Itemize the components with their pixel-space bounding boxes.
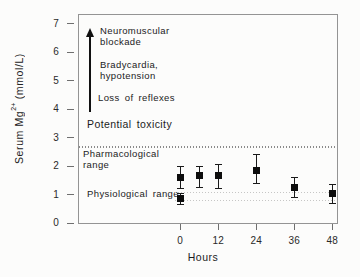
y-tick-label: 6 [41, 46, 59, 57]
error-bar-cap [177, 204, 184, 205]
y-tick-label: 2 [41, 160, 59, 171]
annotation-potential-toxicity: Potential toxicity [87, 119, 172, 130]
data-point-marker [329, 190, 336, 197]
plot-area: Neuromuscular blockade Bradycardia, hypo… [78, 14, 338, 224]
y-tick-mark [67, 23, 74, 24]
data-point-marker [196, 172, 203, 179]
x-tick-label: 12 [207, 235, 229, 246]
annotation-line: Bradycardia, [100, 59, 158, 70]
reference-line [175, 200, 337, 201]
annotation-pharmacological-range: Pharmacological range [83, 148, 159, 170]
annotation-line: blockade [100, 36, 170, 47]
data-point-marker [177, 174, 184, 181]
y-axis-title-prefix: Serum Mg [13, 111, 25, 164]
error-bar-cap [196, 187, 203, 188]
y-tick-mark [67, 80, 74, 81]
annotation-physiological-range: Physiological range [87, 188, 179, 199]
annotation-bradycardia-hypotension: Bradycardia, hypotension [100, 59, 158, 81]
annotation-loss-of-reflexes: Loss of reflexes [98, 92, 175, 103]
data-point-marker [177, 195, 184, 202]
y-tick-mark [67, 52, 74, 53]
error-bar-cap [329, 203, 336, 204]
y-tick-mark [67, 166, 74, 167]
data-point-marker [253, 167, 260, 174]
annotation-line: Neuromuscular [100, 25, 170, 36]
error-bar-cap [253, 154, 260, 155]
x-tick-label: 24 [245, 235, 267, 246]
error-bar-cap [291, 177, 298, 178]
error-bar-cap [215, 188, 222, 189]
y-tick-label: 7 [41, 18, 59, 29]
y-axis-title-superscript: 2+ [10, 103, 17, 111]
data-point-marker [215, 172, 222, 179]
x-tick-mark [256, 224, 257, 230]
reference-line [79, 146, 337, 148]
error-bar-cap [329, 184, 336, 185]
y-tick-label: 0 [41, 217, 59, 228]
arrow-shaft [89, 34, 91, 112]
toxicity-arrow [86, 28, 94, 37]
annotation-line: range [83, 159, 159, 170]
annotation-line: Pharmacological [83, 148, 159, 159]
y-tick-label: 4 [41, 103, 59, 114]
error-bar-cap [253, 183, 260, 184]
y-tick-mark [67, 109, 74, 110]
y-tick-mark [67, 137, 74, 138]
y-axis-title: Serum Mg2+ (mmol/L) [10, 44, 25, 164]
x-axis-title: Hours [73, 251, 333, 263]
x-tick-mark [332, 224, 333, 230]
data-point-marker [291, 184, 298, 191]
annotation-line: hypotension [100, 70, 158, 81]
error-bar-cap [291, 197, 298, 198]
x-tick-label: 0 [169, 235, 191, 246]
x-tick-label: 36 [283, 235, 305, 246]
x-tick-mark [294, 224, 295, 230]
y-tick-label: 1 [41, 189, 59, 200]
x-tick-mark [180, 224, 181, 230]
x-tick-label: 48 [321, 235, 343, 246]
error-bar-cap [177, 193, 184, 194]
error-bar-cap [196, 166, 203, 167]
y-axis-title-suffix: (mmol/L) [13, 53, 25, 103]
chart-figure: Serum Mg2+ (mmol/L) Neuromuscular blocka… [0, 0, 360, 277]
y-tick-mark [67, 223, 74, 224]
x-tick-mark [218, 224, 219, 230]
reference-line [175, 192, 337, 193]
y-tick-label: 3 [41, 132, 59, 143]
annotation-neuromuscular-blockade: Neuromuscular blockade [100, 25, 170, 47]
y-tick-mark [67, 194, 74, 195]
error-bar-cap [215, 164, 222, 165]
y-tick-label: 5 [41, 75, 59, 86]
error-bar-cap [177, 166, 184, 167]
error-bar-cap [177, 188, 184, 189]
